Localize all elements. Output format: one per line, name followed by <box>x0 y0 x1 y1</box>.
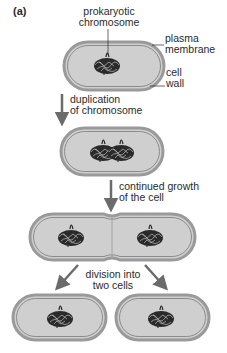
cell-division-diagram <box>0 0 227 353</box>
cell-initial <box>64 29 165 90</box>
arrow-division-left <box>60 265 78 285</box>
daughter-cell-left <box>13 295 106 340</box>
cell-elongated <box>30 214 195 260</box>
arrow-division-right <box>145 265 163 285</box>
daughter-cell-right <box>116 295 209 340</box>
cell-duplicated <box>61 128 163 175</box>
